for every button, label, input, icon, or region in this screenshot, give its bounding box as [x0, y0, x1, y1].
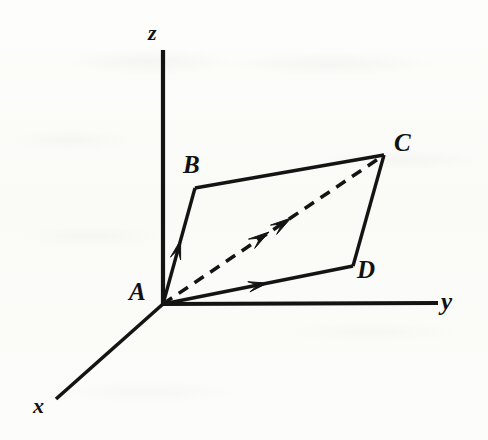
vertex-label-c: C — [394, 130, 411, 155]
vertex-label-b: B — [183, 152, 200, 177]
axes-group — [56, 50, 438, 399]
vector-diagram-figure: z y x A B C D — [0, 0, 488, 440]
y-axis-line — [163, 303, 438, 304]
axis-label-y: y — [441, 289, 452, 314]
vertex-label-a: A — [129, 279, 146, 304]
x-axis-line — [56, 304, 163, 399]
axis-label-x: x — [33, 395, 44, 417]
axis-label-z: z — [148, 22, 157, 44]
edge-BC — [195, 155, 384, 188]
diagram-canvas — [0, 0, 488, 440]
vertex-label-d: D — [357, 257, 375, 282]
arrowhead-AC-2 — [271, 218, 292, 234]
